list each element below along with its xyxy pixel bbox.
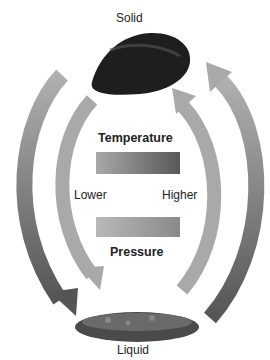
outer-left-arrow [24,75,78,316]
solid-rock-image [92,33,191,95]
higher-label: Higher [162,188,197,202]
cycle-arrows [0,0,270,360]
solid-label: Solid [116,11,143,25]
pressure-label: Pressure [110,245,164,259]
liquid-label: Liquid [117,343,149,357]
temperature-label: Temperature [98,131,173,145]
lower-label: Lower [74,188,107,202]
pressure-bar [96,217,180,237]
temperature-bar [96,152,180,174]
liquid-puddle-image [75,312,199,342]
